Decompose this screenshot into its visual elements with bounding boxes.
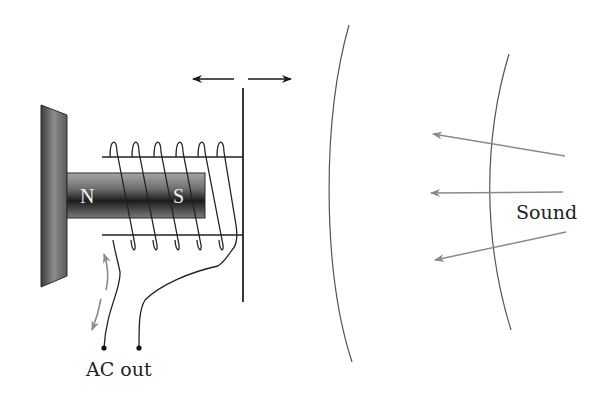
output-terminals: AC out	[85, 345, 152, 380]
sound-label: Sound	[516, 201, 577, 223]
microphone-diagram: N S AC out	[0, 0, 611, 399]
terminal-dot	[101, 345, 106, 350]
current-arrows	[92, 254, 108, 330]
current-arrow-down-icon	[92, 299, 101, 330]
sound-arrow-icon	[433, 134, 565, 156]
bar-magnet: N S	[67, 173, 205, 218]
wavefronts	[329, 25, 511, 362]
ac-out-label: AC out	[85, 358, 152, 380]
sound-arrow-icon	[435, 232, 566, 260]
magnet-south-label: S	[173, 185, 184, 207]
base-plate	[41, 105, 67, 287]
sound-arrows	[431, 134, 566, 260]
magnet-north-label: N	[80, 185, 94, 207]
wavefront-near	[329, 25, 352, 362]
current-arrow-up-icon	[104, 254, 108, 290]
terminal-dot	[136, 345, 141, 350]
sound-arrow-icon	[431, 192, 563, 193]
